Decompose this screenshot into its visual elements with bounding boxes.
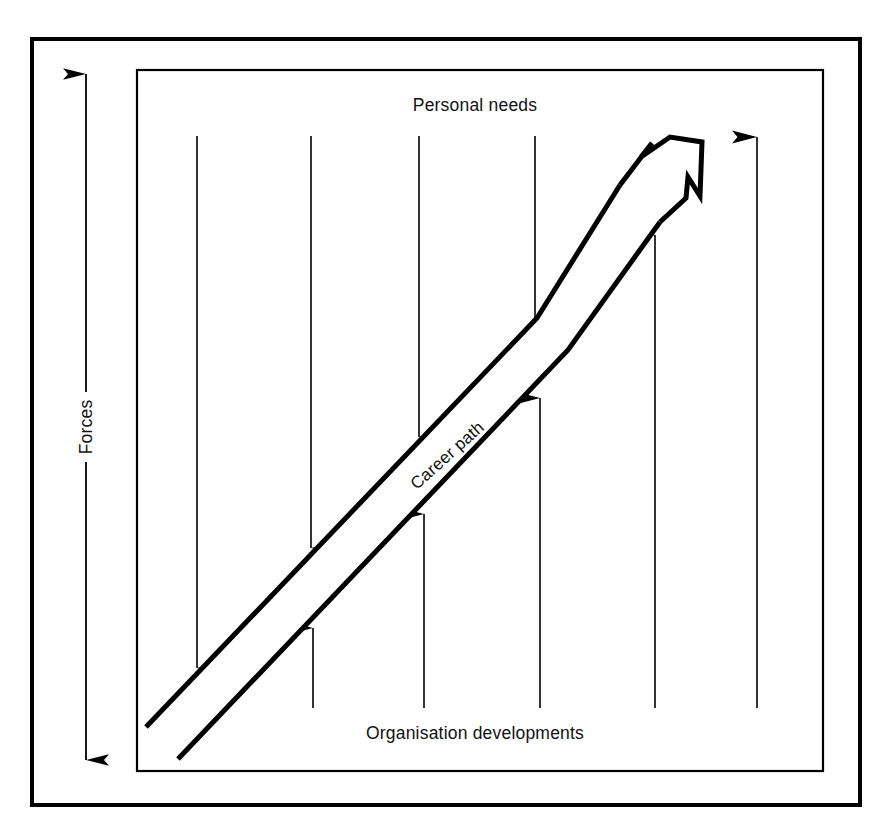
organisation-developments-label: Organisation developments [366, 723, 584, 743]
figure-root: Forces Career path [0, 0, 890, 834]
forces-axis-label: Forces [76, 400, 96, 455]
career-path-upper-edge [146, 185, 620, 727]
personal-needs-label: Personal needs [413, 95, 537, 115]
diagram-canvas: Forces Career path [0, 0, 890, 834]
